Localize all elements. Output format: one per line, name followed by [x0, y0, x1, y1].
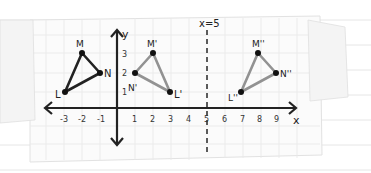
point-L: [62, 89, 68, 95]
label-M-prime: M': [147, 39, 157, 49]
x-tick: 8: [257, 115, 262, 124]
y-tick-labels: 3 2 1: [122, 50, 127, 97]
y-tick: 2: [122, 69, 127, 78]
label-L-double-prime: L'': [228, 93, 238, 103]
label-N-double-prime: N'': [280, 69, 292, 79]
label-M: M: [76, 39, 84, 49]
reflection-line-label: x=5: [199, 18, 220, 29]
coordinate-plane-diagram: x=5 x y -3 -2 -1 1 2 3 4 5 6 7 8 9 3 2 1: [0, 0, 371, 173]
x-tick: -2: [78, 115, 86, 124]
label-N-prime: N': [128, 83, 137, 93]
label-N: N: [104, 68, 111, 79]
x-tick: -1: [97, 115, 105, 124]
point-N-prime: [132, 70, 138, 76]
x-tick: 9: [274, 115, 279, 124]
x-tick: -3: [60, 115, 68, 124]
point-N: [97, 70, 103, 76]
point-M-prime: [150, 50, 156, 56]
x-tick: 1: [132, 115, 137, 124]
point-L-prime: [167, 89, 173, 95]
y-axis-label: y: [122, 28, 129, 41]
tape-right: [308, 20, 348, 101]
point-L-double-prime: [238, 89, 244, 95]
x-tick: 6: [222, 115, 227, 124]
y-tick: 1: [122, 88, 127, 97]
tape-left: [0, 20, 35, 123]
x-tick: 5: [204, 115, 209, 124]
label-L: L: [55, 89, 61, 100]
x-tick: 7: [240, 115, 245, 124]
x-tick: 2: [150, 115, 155, 124]
x-tick: 4: [186, 115, 191, 124]
point-M: [79, 50, 85, 56]
point-N-double-prime: [273, 70, 279, 76]
x-tick: 3: [168, 115, 173, 124]
label-M-double-prime: M'': [252, 39, 265, 49]
x-axis-label: x: [293, 114, 300, 127]
point-M-double-prime: [255, 50, 261, 56]
label-L-prime: L': [174, 89, 182, 100]
y-tick: 3: [122, 50, 127, 59]
